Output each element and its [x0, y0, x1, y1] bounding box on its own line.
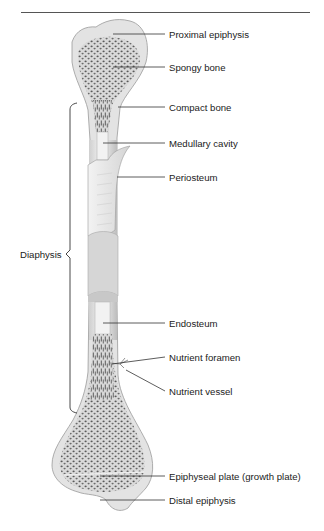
- label-medullary-cavity: Medullary cavity: [169, 138, 238, 149]
- diaphysis-bracket: [66, 103, 77, 413]
- long-bone-illustration: [0, 0, 324, 531]
- label-spongy-bone: Spongy bone: [169, 62, 226, 73]
- medullary-cavity-shape: [97, 132, 108, 160]
- label-distal-epiphysis: Distal epiphysis: [169, 495, 236, 506]
- label-nutrient-vessel: Nutrient vessel: [169, 386, 232, 397]
- label-epiphyseal-plate: Epiphyseal plate (growth plate): [169, 471, 301, 482]
- label-endosteum: Endosteum: [169, 318, 218, 329]
- label-diaphysis: Diaphysis: [20, 249, 62, 260]
- endosteum-shape: [95, 302, 110, 334]
- label-nutrient-foramen: Nutrient foramen: [169, 352, 240, 363]
- label-compact-bone: Compact bone: [169, 102, 231, 113]
- label-proximal-epiphysis: Proximal epiphysis: [169, 29, 249, 40]
- label-periosteum: Periosteum: [169, 172, 218, 183]
